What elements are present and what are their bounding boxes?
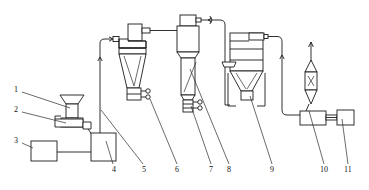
- control-cabinet: [31, 141, 91, 161]
- feed-hopper: [60, 95, 84, 118]
- riser-duct: [98, 37, 113, 133]
- mill: [91, 133, 116, 161]
- classifier-column: [177, 15, 201, 112]
- callout-label-7: 7: [209, 166, 213, 174]
- vibratory-feeder: [55, 116, 93, 136]
- flow-diagram-canvas: [0, 0, 369, 190]
- process-flow-diagram: 1 2 3 4 5 6 7 8 9 10 11: [0, 0, 369, 190]
- cyclone-rotary-valve: [141, 89, 150, 99]
- classifier-outlet-valve: [193, 100, 202, 110]
- callout-label-3: 3: [14, 137, 18, 145]
- callout-label-4: 4: [112, 166, 116, 174]
- classifier-to-baghouse-duct: [201, 16, 230, 105]
- callout-label-10: 10: [320, 166, 328, 174]
- callout-label-2: 2: [14, 106, 18, 114]
- callout-label-11: 11: [344, 166, 352, 174]
- callout-label-6: 6: [175, 166, 179, 174]
- cyclone-separator: [113, 24, 150, 100]
- baghouse-filter: [222, 33, 268, 106]
- callout-label-1: 1: [14, 86, 18, 94]
- callout-label-9: 9: [270, 166, 274, 174]
- drive-motor: [337, 110, 354, 125]
- callout-label-5: 5: [142, 166, 146, 174]
- venturi-fan: [300, 42, 337, 125]
- baghouse-to-fan-duct: [268, 37, 300, 116]
- callout-label-8: 8: [227, 166, 231, 174]
